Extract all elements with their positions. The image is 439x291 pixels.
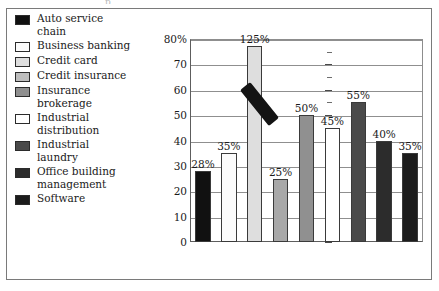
legend-item: Industrial laundry — [15, 138, 163, 163]
bar-rect — [273, 179, 289, 242]
bar-value-label: 50% — [295, 102, 318, 114]
bar: 55% — [351, 39, 367, 242]
bar: 45% — [325, 39, 341, 242]
y-axis-tick-label: 10 — [174, 211, 187, 223]
legend-label: Office building management — [37, 165, 116, 190]
bar-rect — [299, 115, 315, 242]
bar-rect — [247, 46, 263, 242]
legend-label: Credit insurance — [37, 69, 126, 82]
y-axis-tick-label: 0 — [180, 236, 187, 248]
y-axis-tick-label: 60 — [174, 84, 187, 96]
bar-value-label: 35% — [398, 140, 421, 152]
legend-item: Auto service chain — [15, 12, 163, 37]
bar: 35% — [221, 39, 237, 242]
legend-swatch — [15, 141, 30, 151]
legend-item: Business banking — [15, 39, 163, 52]
page-top-artifact: p — [105, 0, 285, 4]
bar: 125% — [247, 39, 263, 242]
legend-swatch — [15, 57, 30, 67]
bar: 25% — [273, 39, 289, 242]
legend-swatch — [15, 72, 30, 82]
y-axis: 80%706050403020100 — [147, 31, 187, 251]
figure-frame: Auto service chainBusiness bankingCredit… — [6, 8, 432, 280]
legend-swatch — [15, 195, 30, 205]
legend-label: Industrial laundry — [37, 138, 89, 163]
y-axis-tick-label: 50 — [174, 109, 187, 121]
legend-item: Credit card — [15, 54, 163, 67]
bar: 28% — [195, 39, 211, 242]
bar-rect — [325, 128, 341, 242]
bar-value-label: 25% — [269, 166, 292, 178]
legend-label: Industrial distribution — [37, 111, 99, 136]
legend-label: Auto service chain — [37, 12, 103, 37]
y-axis-tick-label: 40 — [174, 135, 187, 147]
y-axis-tick-label: 30 — [174, 160, 187, 172]
bar-series: 28%35%125%25%50%45%55%40%35% — [190, 39, 423, 242]
legend-swatch — [15, 87, 30, 97]
legend-item: Insurance brokerage — [15, 84, 163, 109]
bar: 40% — [376, 39, 392, 242]
legend-swatch — [15, 114, 30, 124]
bar-value-label: 55% — [347, 89, 370, 101]
legend-swatch — [15, 168, 30, 178]
bar: 50% — [299, 39, 315, 242]
legend-item: Credit insurance — [15, 69, 163, 82]
bar-rect — [351, 102, 367, 242]
bar-rect — [402, 153, 418, 242]
bar-value-label: 45% — [321, 115, 344, 127]
bar-value-label: 125% — [240, 33, 270, 45]
bar-rect — [221, 153, 237, 242]
bar-value-label: 28% — [191, 158, 214, 170]
legend-label: Business banking — [37, 39, 130, 52]
bar-rect — [376, 141, 392, 243]
y-axis-tick-label: 20 — [174, 185, 187, 197]
y-axis-tick-label: 80% — [164, 33, 187, 45]
legend-label: Insurance brokerage — [37, 84, 92, 109]
y-axis-major-tick — [325, 242, 332, 243]
legend-item: Office building management — [15, 165, 163, 190]
legend-swatch — [15, 42, 30, 52]
legend-label: Credit card — [37, 54, 98, 67]
bar: 35% — [402, 39, 418, 242]
legend-label: Software — [37, 192, 85, 205]
bar-rect — [195, 171, 211, 242]
bar-value-label: 35% — [217, 140, 240, 152]
bar-value-label: 40% — [372, 128, 395, 140]
legend-item: Industrial distribution — [15, 111, 163, 136]
chart-legend: Auto service chainBusiness bankingCredit… — [15, 12, 163, 278]
legend-item: Software — [15, 192, 163, 205]
legend-swatch — [15, 15, 30, 25]
y-axis-tick-label: 70 — [174, 58, 187, 70]
